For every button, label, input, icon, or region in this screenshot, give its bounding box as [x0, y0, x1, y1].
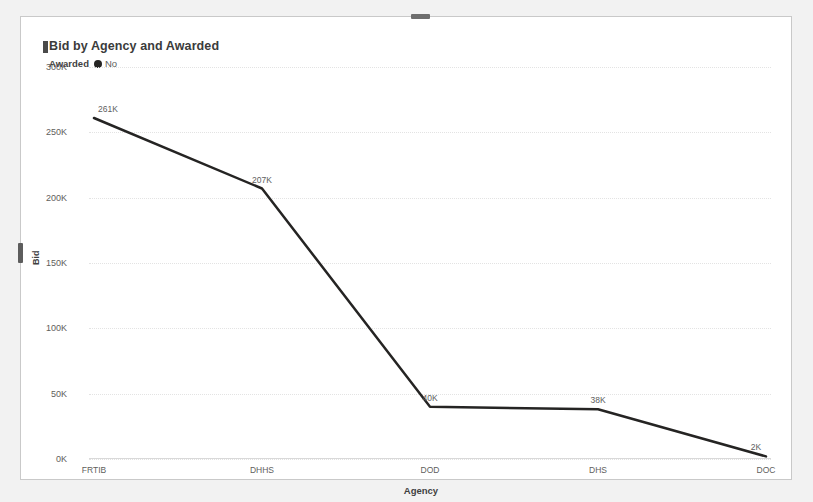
report-visual-card[interactable]: Bid by Agency and Awarded Awarded No Bid…: [20, 16, 792, 480]
y-axis-tick-label: 100K: [27, 323, 67, 333]
data-label: 38K: [590, 395, 605, 405]
data-label: 2K: [751, 442, 761, 452]
y-axis-tick-label: 200K: [27, 193, 67, 203]
y-axis-tick-label: 150K: [27, 258, 67, 268]
top-resize-handle[interactable]: [411, 14, 430, 19]
y-axis-tick-label: 250K: [27, 127, 67, 137]
x-axis-tick-label: DOC: [757, 465, 776, 475]
data-label: 261K: [98, 104, 118, 114]
y-axis-tick-label: 50K: [27, 389, 67, 399]
visual-selection-marker: [43, 41, 48, 53]
x-axis-tick-label: FRTIB: [82, 465, 106, 475]
y-axis-tick-label: 300K: [27, 62, 67, 72]
gridline: [89, 459, 771, 460]
x-axis-tick-label: DHHS: [250, 465, 274, 475]
x-axis-tick-label: DHS: [589, 465, 607, 475]
screenshot-root: Bid by Agency and Awarded Awarded No Bid…: [0, 0, 813, 502]
plot-area[interactable]: 0K50K100K150K200K250K300K FRTIBDHHSDODDH…: [71, 67, 771, 459]
line-series-no: [71, 67, 771, 459]
x-axis-title: Agency: [71, 485, 771, 496]
data-label: 207K: [252, 175, 272, 185]
page-title: Bid by Agency and Awarded: [49, 39, 219, 53]
y-axis-tick-label: 0K: [27, 454, 67, 464]
left-resize-handle[interactable]: [18, 243, 23, 263]
x-axis-tick-label: DOD: [421, 465, 440, 475]
data-label: 40K: [422, 393, 437, 403]
